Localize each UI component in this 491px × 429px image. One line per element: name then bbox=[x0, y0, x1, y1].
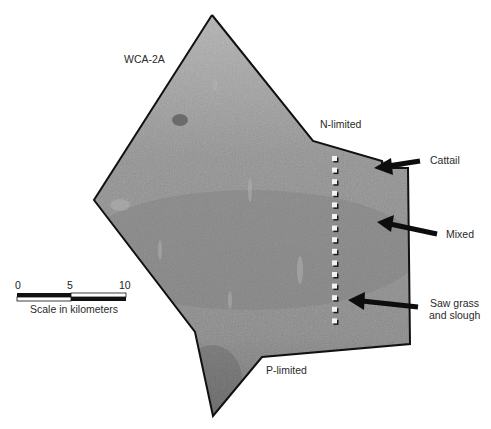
scale-tick-10: 10 bbox=[119, 279, 131, 291]
sampling-site-marker bbox=[332, 249, 337, 254]
sampling-site-marker bbox=[332, 191, 337, 196]
sampling-site-marker bbox=[332, 272, 337, 277]
sampling-site-marker bbox=[332, 156, 337, 161]
scale-caption: Scale in kilometers bbox=[30, 303, 118, 316]
dark-patch bbox=[172, 114, 188, 126]
sampling-site-marker bbox=[332, 295, 337, 300]
sampling-site-marker bbox=[332, 307, 337, 312]
sawgrass-label-line2: and slough bbox=[429, 309, 480, 322]
scale-tick-5: 5 bbox=[67, 279, 73, 291]
sampling-site-marker bbox=[332, 260, 337, 265]
sampling-site-marker bbox=[332, 284, 337, 289]
mixed-label: Mixed bbox=[446, 228, 474, 241]
sampling-site-marker bbox=[332, 202, 337, 207]
sampling-site-marker bbox=[332, 226, 337, 231]
n-limited-label: N-limited bbox=[320, 118, 361, 131]
wca-2a-area bbox=[80, 10, 420, 420]
scale-tick-0: 0 bbox=[15, 279, 21, 291]
area-label: WCA-2A bbox=[124, 53, 165, 66]
cattail-label: Cattail bbox=[430, 154, 460, 167]
p-limited-label: P-limited bbox=[266, 364, 307, 377]
scale-bar bbox=[17, 293, 126, 301]
map-canvas bbox=[0, 0, 491, 429]
sampling-site-marker bbox=[332, 318, 337, 323]
sampling-site-marker bbox=[332, 168, 337, 173]
sampling-site-marker bbox=[332, 214, 337, 219]
sampling-site-marker bbox=[332, 237, 337, 242]
sampling-site-marker bbox=[332, 179, 337, 184]
transect-sampling-sites bbox=[332, 156, 339, 325]
